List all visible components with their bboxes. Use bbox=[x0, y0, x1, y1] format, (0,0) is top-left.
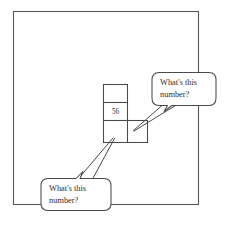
grid-cell-middle-value: 56 bbox=[112, 108, 120, 116]
grid-cell-bottom-left[interactable] bbox=[104, 121, 128, 143]
grid-cell-top[interactable] bbox=[104, 85, 128, 103]
callout-bottom-left-line2: number? bbox=[49, 196, 79, 205]
diagram-svg: 56 What's this number? What's this numbe… bbox=[0, 0, 227, 227]
callout-top-right-line1: What's this bbox=[160, 78, 197, 87]
callout-bottom-left-pointer bbox=[79, 138, 115, 180]
callout-bottom-left-line1: What's this bbox=[49, 184, 86, 193]
grid-cell-bottom-right[interactable] bbox=[128, 121, 148, 143]
callout-top-right-line2: number? bbox=[160, 90, 190, 99]
figure-canvas: 56 What's this number? What's this numbe… bbox=[0, 0, 227, 227]
